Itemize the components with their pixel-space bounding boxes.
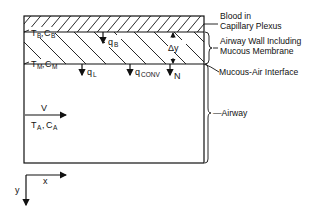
- svg-text:Mucous Membrane: Mucous Membrane: [220, 46, 294, 56]
- svg-text:B: B: [114, 41, 118, 48]
- ta-ca-label: T A , C A: [31, 120, 58, 131]
- svg-text:—Airway: —Airway: [213, 108, 248, 118]
- delta-y-thickness: Δy: [168, 33, 179, 63]
- svg-text:q: q: [108, 37, 113, 47]
- svg-text:x: x: [43, 176, 48, 186]
- svg-text:C: C: [44, 28, 51, 38]
- airway-brace: [205, 64, 211, 163]
- wall-brace: [205, 32, 218, 64]
- coordinate-axes: x y: [15, 175, 66, 205]
- interface-label: Mucous-Air Interface: [204, 64, 299, 77]
- qconv-flux-arrow: q CONV: [130, 64, 160, 78]
- ql-flux-arrow: q L: [82, 64, 97, 78]
- blood-label: Blood in Capillary Plexus: [204, 11, 282, 31]
- svg-text:L: L: [93, 71, 97, 78]
- svg-text:q: q: [87, 67, 92, 77]
- svg-text:M: M: [52, 63, 57, 70]
- svg-text:Capillary Plexus: Capillary Plexus: [220, 21, 282, 31]
- wall-label: Airway Wall Including Mucous Membrane: [220, 36, 302, 56]
- svg-text:Blood in: Blood in: [220, 11, 251, 21]
- airway-label: —Airway: [213, 108, 248, 118]
- svg-text:Δy: Δy: [168, 43, 179, 53]
- n-flux-arrow: N: [170, 64, 181, 81]
- svg-text:Mucous-Air Interface: Mucous-Air Interface: [219, 67, 299, 77]
- svg-text:q: q: [135, 67, 140, 77]
- airway-diagram: T B , C B T M , C M q B Δy q L q CONV: [0, 0, 324, 222]
- svg-text:C: C: [46, 120, 53, 130]
- svg-text:A: A: [53, 124, 58, 131]
- svg-text:y: y: [15, 185, 20, 195]
- svg-text:B: B: [51, 32, 55, 39]
- svg-text:V: V: [41, 103, 47, 113]
- svg-text:CONV: CONV: [141, 71, 160, 78]
- svg-text:C: C: [45, 59, 52, 69]
- velocity-arrow: V: [25, 103, 66, 115]
- svg-text:,: ,: [42, 120, 45, 130]
- svg-text:N: N: [174, 71, 181, 81]
- svg-text:Airway Wall Including: Airway Wall Including: [220, 36, 302, 46]
